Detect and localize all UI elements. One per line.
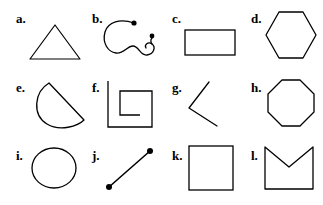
envelope-polygon-shape: [263, 145, 315, 191]
figure-label-k: k.: [172, 149, 182, 162]
figure-label-f: f.: [92, 81, 100, 94]
squiggle-curve-shape: [100, 16, 162, 62]
figure-label-g: g.: [172, 81, 182, 94]
rectangle-shape: [184, 29, 236, 57]
figure-label-j: j.: [92, 149, 100, 162]
line-segment-shape: [104, 146, 156, 192]
figure-label-e: e.: [16, 81, 25, 94]
figure-cell-e: e.: [0, 68, 81, 137]
figure-cell-k: k.: [162, 137, 243, 205]
worksheet-page: a. b. c. d.: [0, 0, 323, 205]
figure-label-a: a.: [16, 12, 26, 25]
hexagon-shape: [264, 10, 318, 60]
triangle-shape: [27, 22, 83, 62]
angle-shape: [187, 80, 239, 130]
figure-cell-g: g.: [162, 68, 243, 137]
figure-cell-j: j.: [81, 137, 162, 205]
figure-cell-b: b.: [81, 0, 162, 68]
circle-shape: [30, 146, 78, 190]
figure-cell-c: c.: [162, 0, 243, 68]
figure-cell-l: l.: [243, 137, 323, 205]
figure-label-d: d.: [251, 12, 261, 25]
figure-label-h: h.: [251, 81, 261, 94]
figure-cell-f: f.: [81, 68, 162, 137]
rectangular-spiral-shape: [106, 79, 156, 131]
figure-cell-h: h.: [243, 68, 323, 137]
square-shape: [188, 145, 234, 191]
figure-cell-a: a.: [0, 0, 81, 68]
figure-cell-d: d.: [243, 0, 323, 68]
half-disc-shape: [34, 80, 88, 130]
figure-label-c: c.: [172, 12, 181, 25]
octagon-shape: [266, 78, 316, 128]
figure-label-l: l.: [251, 149, 258, 162]
figure-cell-i: i.: [0, 137, 81, 205]
figure-label-i: i.: [16, 149, 23, 162]
